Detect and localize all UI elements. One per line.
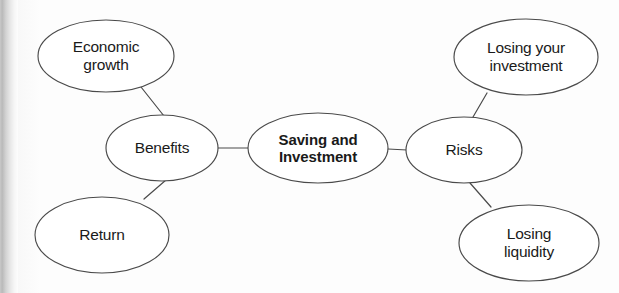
edge-risks-losing-liquidity [470,183,491,207]
node-shape-saving-and-investment[interactable] [248,113,388,183]
edge-center-risks [388,149,407,150]
diagram-canvas [0,0,619,293]
node-shape-risks[interactable] [406,117,522,183]
node-shape-losing-your-investment[interactable] [454,19,598,95]
edge-economic-growth-benefits [141,87,164,116]
node-shape-group [35,19,599,281]
edge-risks-losing-your-investment [473,93,487,117]
node-shape-losing-liquidity[interactable] [459,205,599,281]
node-shape-return[interactable] [35,197,169,273]
node-shape-benefits[interactable] [106,115,218,181]
diagram-page: Economic growthBenefitsReturnSaving and … [0,0,619,293]
node-shape-economic-growth[interactable] [38,20,174,92]
edge-benefits-return [144,180,166,199]
